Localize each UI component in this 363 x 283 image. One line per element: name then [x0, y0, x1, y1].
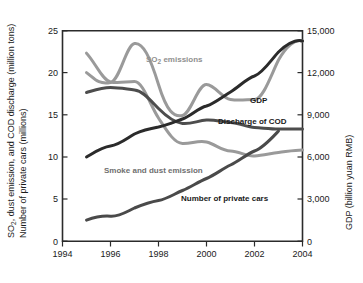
right-axis-title: GDP (billion yuan RMB)	[344, 135, 354, 230]
x-tick-2004: 2004	[292, 249, 312, 259]
y-tick-20: 20	[48, 68, 58, 78]
y-tick-5: 5	[53, 194, 58, 204]
y-tick-10: 10	[48, 152, 58, 162]
x-tick-1998: 1998	[148, 249, 168, 259]
y2-tick-6000: 6,000	[307, 152, 330, 162]
y-tick-0: 0	[53, 237, 58, 247]
discharge-of-cod-label: Discharge of COD	[218, 117, 287, 126]
gdp-label: GDP	[250, 96, 268, 105]
y-tick-15: 15	[48, 110, 58, 120]
y2-tick-15000: 15,000	[307, 26, 335, 36]
x-tick-1996: 1996	[100, 249, 120, 259]
y2-tick-3000: 3,000	[307, 194, 330, 204]
smoke-and-dust-emission-label: Smoke and dust emission	[104, 166, 203, 175]
y2-tick-0: 0	[307, 237, 312, 247]
y-tick-25: 25	[48, 26, 58, 36]
number-of-private-cars-label: Number of private cars	[181, 194, 269, 203]
so2-emissions-label: SO2 emissions	[146, 55, 203, 65]
x-tick-1994: 1994	[52, 249, 72, 259]
left-axis-title-line2: Number of private cars (millions)	[18, 108, 28, 238]
y2-tick-9000: 9,000	[307, 110, 330, 120]
x-tick-2002: 2002	[244, 249, 264, 259]
left-axis-title-line1: SO2, dust emission, and COD discharge (m…	[6, 24, 17, 238]
chart-svg: 0 5 10 15 20 25 0 3,000 6,000 9,000 12,0…	[0, 0, 363, 283]
chart-container: 0 5 10 15 20 25 0 3,000 6,000 9,000 12,0…	[0, 0, 363, 283]
x-tick-2000: 2000	[196, 249, 216, 259]
y2-tick-12000: 12,000	[307, 68, 335, 78]
